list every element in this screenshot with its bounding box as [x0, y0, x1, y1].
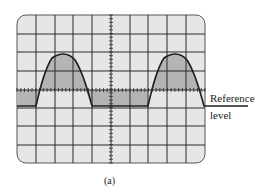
reference-label: Reference: [210, 92, 255, 104]
level-label: level: [210, 109, 231, 121]
figure-caption: (a): [104, 175, 115, 186]
